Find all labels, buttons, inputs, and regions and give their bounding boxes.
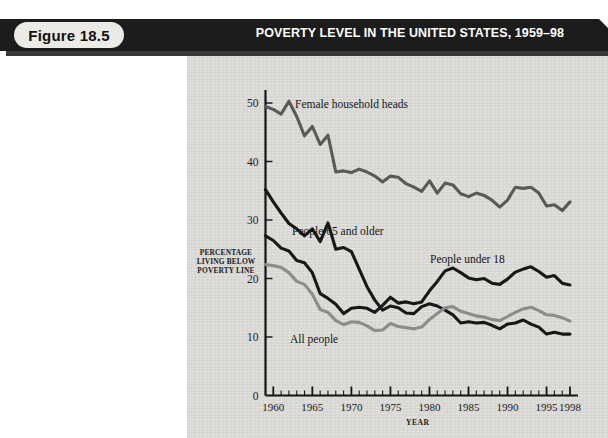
y-tick-label: 50 <box>247 97 259 109</box>
x-tick-label: 1960 <box>262 401 285 413</box>
x-tick-label: 1995 <box>536 401 559 413</box>
y-tick-label: 30 <box>247 214 259 226</box>
chart-axes: 0102030405019601965197019751980198519901… <box>247 90 582 427</box>
chart-series-group <box>266 101 571 334</box>
y-tick-label: 40 <box>247 156 259 168</box>
x-tick-label: 1975 <box>379 401 402 413</box>
y-tick-label: 0 <box>253 390 259 402</box>
x-tick-label: 1998 <box>559 401 582 413</box>
poverty-line-chart: 0102030405019601965197019751980198519901… <box>0 0 608 438</box>
series-label: All people <box>290 333 338 346</box>
series-line <box>266 101 571 210</box>
y-axis-title-line-3: POVERTY LINE <box>190 266 262 275</box>
figure-number-label: Figure 18.5 <box>28 27 109 44</box>
x-tick-label: 1965 <box>301 401 324 413</box>
y-tick-label: 10 <box>247 331 259 343</box>
x-tick-label: 1990 <box>497 401 520 413</box>
figure-number-badge: Figure 18.5 <box>14 22 124 48</box>
y-axis-title-line-2: LIVING BELOW <box>190 257 262 266</box>
series-line <box>266 236 571 314</box>
x-tick-label: 1985 <box>458 401 481 413</box>
figure-title: POVERTY LEVEL IN THE UNITED STATES, 1959… <box>225 26 595 46</box>
x-axis-title: YEAR <box>406 418 430 427</box>
series-label: People 65 and older <box>292 225 384 238</box>
series-label: People under 18 <box>430 253 505 266</box>
series-label: Female household heads <box>295 98 409 110</box>
series-line <box>266 190 571 335</box>
x-tick-label: 1980 <box>418 401 441 413</box>
y-axis-title: PERCENTAGE LIVING BELOW POVERTY LINE <box>190 248 262 275</box>
x-tick-label: 1970 <box>340 401 363 413</box>
banner-shadow <box>6 51 608 56</box>
y-axis-title-line-1: PERCENTAGE <box>190 248 262 257</box>
